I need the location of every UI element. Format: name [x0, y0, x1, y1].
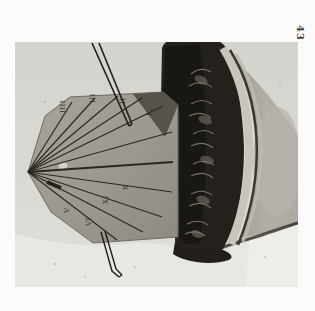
plate-number: 43: [288, 24, 314, 42]
dial-numeral: XI: [102, 195, 110, 204]
dial-numeral: X: [122, 185, 130, 190]
dial-numeral: III: [89, 93, 97, 103]
book-page: 43: [0, 0, 315, 311]
dial-numeral: I: [146, 113, 154, 116]
photo-sundial-on-column: IIII III II I XI X VI V: [15, 42, 298, 287]
dial-numeral: IIII: [59, 100, 67, 113]
dial-numeral: V: [63, 207, 71, 214]
dial-numeral: VI: [85, 217, 93, 227]
